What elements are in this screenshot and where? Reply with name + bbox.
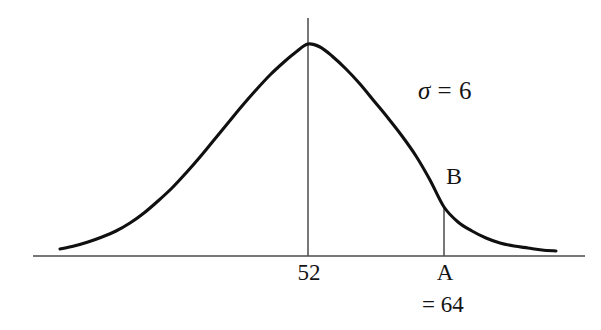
point-a-label: A bbox=[424, 261, 466, 284]
point-a-value-label: = 64 bbox=[422, 293, 464, 316]
sigma-symbol: σ bbox=[418, 77, 431, 104]
sigma-value: 6 bbox=[459, 77, 472, 104]
point-b-label: B bbox=[446, 164, 462, 188]
sigma-annotation: σ = 6 bbox=[418, 78, 472, 103]
sigma-equals-sign: = bbox=[431, 77, 459, 104]
mean-tick-label: 52 bbox=[288, 261, 330, 284]
normal-distribution-figure: σ = 6 B 52 A = 64 bbox=[0, 0, 601, 330]
